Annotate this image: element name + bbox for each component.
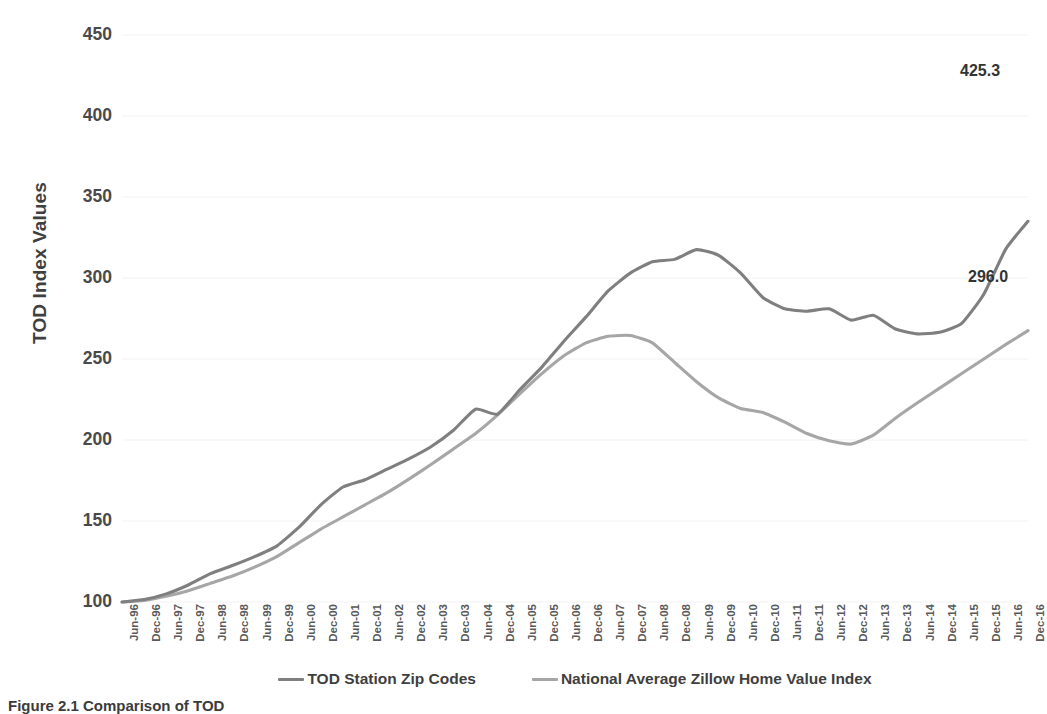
y-axis-tick-label: 450 [52, 26, 112, 44]
y-axis-tick-label: 200 [52, 431, 112, 449]
x-axis-tick-label: Dec-14 [945, 604, 959, 662]
x-axis-tick-label: Jun-10 [746, 604, 760, 662]
legend-item[interactable]: TOD Station Zip Codes [278, 670, 476, 688]
x-axis-tick-label: Dec-16 [1033, 604, 1047, 662]
x-axis-tick-label: Jun-05 [525, 604, 539, 662]
x-axis-tick-label: Jun-15 [967, 604, 981, 662]
x-axis-tick-label: Dec-11 [812, 604, 826, 662]
chart-plot-svg [122, 35, 1028, 602]
x-axis-tick-label: Jun-14 [923, 604, 937, 662]
x-axis-tick-label: Dec-97 [193, 604, 207, 662]
x-axis-tick-label: Jun-06 [569, 604, 583, 662]
x-axis-tick-label: Jun-09 [702, 604, 716, 662]
x-axis-tick-label: Jun-01 [348, 604, 362, 662]
x-axis-tick-label: Dec-13 [900, 604, 914, 662]
y-axis-tick-label: 350 [52, 188, 112, 206]
x-axis-tick-label: Jun-02 [392, 604, 406, 662]
x-axis-tick-label: Jun-11 [790, 604, 804, 662]
x-axis-tick-label: Dec-02 [414, 604, 428, 662]
legend-swatch-icon [532, 678, 558, 681]
x-axis-tick-label: Jun-13 [878, 604, 892, 662]
x-axis-tick-label: Jun-00 [304, 604, 318, 662]
legend-item[interactable]: National Average Zillow Home Value Index [532, 670, 872, 688]
x-axis-tick-label: Jun-97 [171, 604, 185, 662]
x-axis-tick-label: Jun-98 [215, 604, 229, 662]
y-axis-tick-label: 250 [52, 350, 112, 368]
x-axis-tick-label: Dec-98 [237, 604, 251, 662]
x-axis-tick-label: Dec-09 [724, 604, 738, 662]
data-label-tod-end: 425.3 [960, 62, 1000, 80]
x-axis-tick-label: Dec-08 [679, 604, 693, 662]
x-axis-tick-label: Jun-08 [657, 604, 671, 662]
x-axis-tick-label: Dec-00 [326, 604, 340, 662]
y-axis-tick-label: 400 [52, 107, 112, 125]
chart-legend: TOD Station Zip CodesNational Average Zi… [122, 666, 1028, 692]
x-axis-tick-label: Dec-01 [370, 604, 384, 662]
x-axis-tick-label: Dec-06 [591, 604, 605, 662]
figure-caption: Figure 2.1 Comparison of TOD [8, 697, 1028, 714]
x-axis-tick-label: Jun-03 [436, 604, 450, 662]
legend-label: TOD Station Zip Codes [307, 670, 476, 688]
x-axis-tick-label: Dec-04 [503, 604, 517, 662]
x-axis-tick-label: Dec-10 [768, 604, 782, 662]
x-axis-tick-label: Jun-16 [1011, 604, 1025, 662]
series-line [122, 331, 1028, 602]
y-axis-tick-label: 100 [52, 593, 112, 611]
x-axis-tick-group: Jun-96Dec-96Jun-97Dec-97Jun-98Dec-98Jun-… [122, 606, 1028, 664]
x-axis-tick-label: Jun-04 [481, 604, 495, 662]
x-axis-tick-label: Dec-03 [458, 604, 472, 662]
y-axis-tick-label: 150 [52, 512, 112, 530]
x-axis-tick-label: Dec-05 [547, 604, 561, 662]
legend-swatch-icon [278, 678, 304, 681]
y-axis-tick-group: 450400350300250200150100 [50, 0, 112, 707]
y-axis-title: TOD Index Values [29, 113, 51, 413]
x-axis-tick-label: Dec-96 [149, 604, 163, 662]
gridlines [122, 35, 1028, 602]
legend-label: National Average Zillow Home Value Index [561, 670, 872, 688]
x-axis-tick-label: Dec-12 [856, 604, 870, 662]
x-axis-tick-label: Dec-07 [635, 604, 649, 662]
x-axis-tick-label: Dec-15 [989, 604, 1003, 662]
x-axis-tick-label: Jun-12 [834, 604, 848, 662]
x-axis-tick-label: Dec-99 [282, 604, 296, 662]
x-axis-tick-label: Jun-07 [613, 604, 627, 662]
x-axis-tick-label: Jun-96 [127, 604, 141, 662]
x-axis-tick-label: Jun-99 [260, 604, 274, 662]
data-label-national-end: 296.0 [968, 268, 1008, 286]
y-axis-tick-label: 300 [52, 269, 112, 287]
plot-area [122, 35, 1028, 602]
